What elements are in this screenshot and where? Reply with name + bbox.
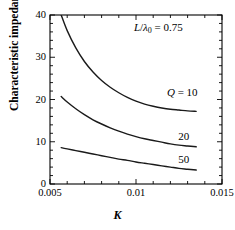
curve-label-20: 20 [178,130,189,142]
curve-label-10: Q = 10 [167,86,198,98]
plot-area [0,0,235,230]
chart-figure: Characteristic impedance Zc [Ω] 01020304… [0,0,235,230]
axes-frame [50,15,222,184]
length-ratio-annotation: L/λ0 = 0.75 [134,21,183,35]
curve-50 [61,148,196,170]
curve-20 [61,97,196,147]
axis-ticks [50,15,222,184]
curve-label-50: 50 [178,153,189,165]
